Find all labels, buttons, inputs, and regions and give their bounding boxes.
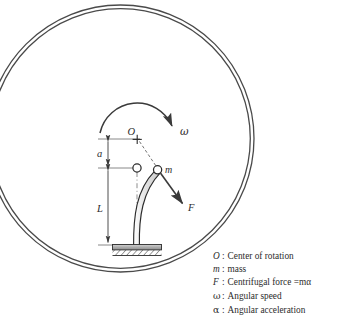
radius-dashed-line — [140, 142, 157, 167]
legend-symbol-omega: ω — [213, 289, 222, 302]
legend-item-force: F : Centrifugal force = m α — [213, 276, 342, 289]
legend-colon-1: : — [222, 263, 225, 276]
legend-symbol-alpha: α — [213, 303, 222, 316]
mass-label: m — [165, 164, 172, 175]
base-block — [113, 245, 162, 250]
dimension-L-group: L — [96, 171, 108, 243]
ground-hatching — [113, 250, 162, 256]
dimension-L-label: L — [96, 203, 103, 214]
legend-text-mass: mass — [228, 263, 247, 276]
legend-symbol-m: m — [213, 263, 222, 276]
force-arrow-group: F — [161, 173, 195, 213]
force-label: F — [187, 202, 195, 213]
legend: O : Center of rotation m : mass F : Cent… — [213, 250, 342, 317]
legend-item-angular-acceleration: α : Angular acceleration — [213, 303, 342, 317]
legend-symbol-F: F — [213, 276, 222, 289]
legend-colon-3: : — [222, 290, 225, 303]
dimension-a-label: a — [97, 148, 102, 159]
drum-outer-circle — [0, 5, 254, 272]
beam-body — [134, 172, 161, 246]
legend-item-angular-speed: ω : Angular speed — [213, 289, 342, 303]
legend-text-center-of-rotation: Center of rotation — [228, 250, 294, 263]
center-of-rotation-label: O — [128, 126, 136, 137]
mass-undeflected-circle — [133, 164, 141, 172]
figure-container: ω a L — [0, 0, 342, 330]
legend-item-mass: m : mass — [213, 263, 342, 276]
legend-colon-2: : — [222, 276, 225, 289]
center-of-rotation-group: O — [128, 126, 142, 144]
mass-deflected-circle — [154, 166, 162, 174]
drum-inner-circle — [0, 9, 250, 269]
mass-deflected-group: m — [154, 164, 173, 175]
legend-item-center-of-rotation: O : Center of rotation — [213, 250, 342, 263]
dimension-a-group: a — [97, 142, 108, 166]
legend-text-angular-acceleration: Angular acceleration — [228, 304, 306, 317]
legend-colon-4: : — [222, 304, 225, 317]
drum-wall-group — [0, 5, 254, 272]
legend-symbol-O: O — [213, 250, 222, 263]
fixed-base-group — [113, 245, 162, 256]
legend-text-force: Centrifugal force = — [228, 276, 299, 289]
legend-force-alpha-symbol: α — [306, 276, 311, 289]
flexible-beam-group — [134, 172, 161, 246]
legend-text-angular-speed: Angular speed — [228, 290, 282, 303]
rotation-arc — [100, 103, 172, 133]
legend-force-mass-symbol: m — [299, 276, 306, 289]
force-arrow-line — [161, 173, 183, 203]
legend-colon-0: : — [222, 250, 225, 263]
omega-label: ω — [180, 125, 189, 137]
rotation-arc-group: ω — [100, 103, 189, 137]
